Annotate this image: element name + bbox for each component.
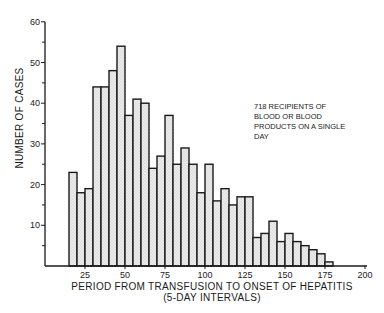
histogram-bar [77,193,85,266]
x-tick-label: 125 [237,270,252,280]
histogram-bar [253,238,261,266]
histogram-bar [109,71,117,266]
bars-group [69,46,333,266]
y-tick-label: 10 [30,220,40,230]
histogram-bar [269,221,277,266]
y-axis: 102030405060 [30,17,45,266]
y-tick-label: 30 [30,139,40,149]
histogram-bar [189,164,197,266]
histogram-bar [101,87,109,266]
x-tick-label: 175 [317,270,332,280]
histogram-bar [317,254,325,266]
histogram-bar [277,242,285,266]
histogram-bar [117,46,125,266]
histogram-bar [141,103,149,266]
annotation-line: BLOOD OR BLOOD [254,112,323,121]
histogram-bar [293,242,301,266]
histogram-bar [309,250,317,266]
histogram-bar [245,197,253,266]
histogram-bar [125,115,133,266]
histogram-bar [181,148,189,266]
x-axis-subtitle: (5-DAY INTERVALS) [163,292,261,303]
annotation-text: 718 RECIPIENTS OFBLOOD OR BLOODPRODUCTS … [254,102,345,141]
histogram-bar [165,115,173,266]
annotation-line: PRODUCTS ON A SINGLE [254,122,345,131]
histogram-bar [173,164,181,266]
histogram-bar [213,201,221,266]
annotation-line: DAY [254,132,269,141]
histogram-bar [237,197,245,266]
x-tick-label: 200 [357,270,372,280]
y-axis-title: NUMBER OF CASES [14,67,25,168]
y-tick-label: 60 [30,17,40,27]
histogram-bar [261,233,269,266]
histogram-bar [149,168,157,266]
histogram-bar [93,87,101,266]
histogram-bar [69,172,77,266]
histogram-bar [301,246,309,266]
histogram-bar [205,164,213,266]
x-axis-title: PERIOD FROM TRANSFUSION TO ONSET OF HEPA… [71,281,352,292]
annotation-line: 718 RECIPIENTS OF [254,102,327,111]
y-tick-label: 20 [30,180,40,190]
histogram-bar [157,156,165,266]
x-tick-label: 150 [277,270,292,280]
histogram-bar [85,189,93,266]
histogram-bar [229,205,237,266]
x-tick-label: 25 [80,270,90,280]
histogram-bar [133,99,141,266]
histogram-bar [221,189,229,266]
histogram-chart: 102030405060 255075100125150175200 NUMBE… [0,0,384,313]
x-tick-label: 100 [197,270,212,280]
histogram-bar [285,233,293,266]
histogram-bar [197,193,205,266]
x-axis: 255075100125150175200 [45,266,373,280]
x-tick-label: 75 [160,270,170,280]
y-tick-label: 40 [30,98,40,108]
y-tick-label: 50 [30,58,40,68]
x-tick-label: 50 [120,270,130,280]
